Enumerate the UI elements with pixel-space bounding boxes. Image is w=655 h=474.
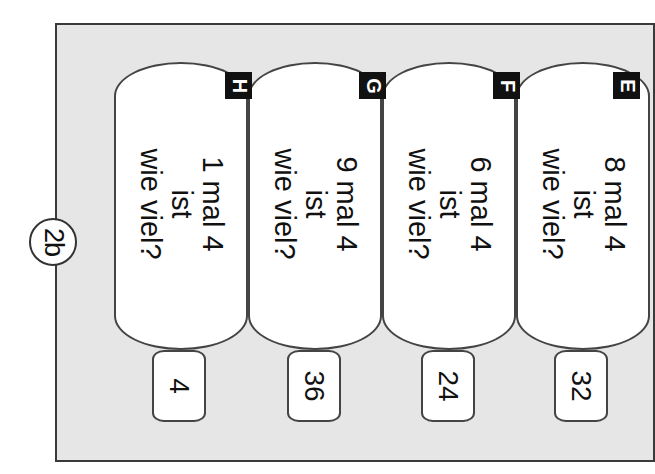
answer-value: 32 xyxy=(565,370,597,401)
card-letter-badge: E xyxy=(613,72,640,99)
answer-value: 4 xyxy=(163,378,195,394)
card-letter-badge: H xyxy=(225,72,252,99)
section-label: 2b xyxy=(38,228,69,256)
answer-tab-e[interactable]: 32 xyxy=(554,350,608,422)
card-question: 9 mal 4istwie viel? xyxy=(269,148,362,259)
card-question: 1 mal 4istwie viel? xyxy=(135,148,228,259)
answer-tab-g[interactable]: 36 xyxy=(287,350,341,422)
card-letter-badge: F xyxy=(493,72,520,99)
question-card-e[interactable]: E 8 mal 4istwie viel? xyxy=(516,62,650,350)
answer-value: 36 xyxy=(298,370,330,401)
answer-tab-h[interactable]: 4 xyxy=(152,350,206,422)
answer-tab-f[interactable]: 24 xyxy=(421,350,475,422)
question-card-f[interactable]: F 6 mal 4istwie viel? xyxy=(382,62,516,350)
question-card-g[interactable]: G 9 mal 4istwie viel? xyxy=(248,62,382,350)
question-card-h[interactable]: H 1 mal 4istwie viel? xyxy=(114,62,248,350)
section-label-circle: 2b xyxy=(29,218,77,266)
card-question: 6 mal 4istwie viel? xyxy=(403,148,496,259)
answer-value: 24 xyxy=(432,370,464,401)
card-letter-badge: G xyxy=(359,72,386,99)
card-question: 8 mal 4istwie viel? xyxy=(537,148,630,259)
